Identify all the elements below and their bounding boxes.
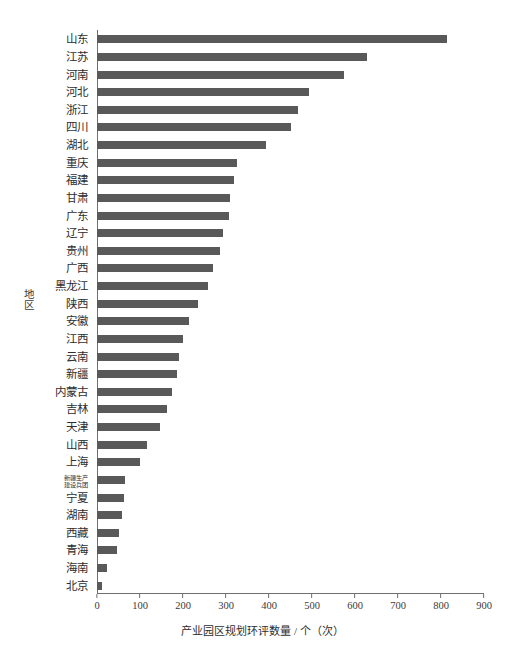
- bar-row: [97, 541, 484, 560]
- bar: [97, 388, 172, 396]
- bar-row: [97, 224, 484, 243]
- bar-row: [97, 259, 484, 278]
- bar: [97, 88, 309, 96]
- category-label: 河南: [66, 65, 88, 84]
- x-axis-tick: 0: [94, 594, 99, 611]
- category-label: 江苏: [66, 48, 88, 67]
- category-label: 吉林: [66, 400, 88, 419]
- bar: [97, 423, 160, 431]
- category-label: 甘肃: [66, 189, 88, 208]
- bar: [97, 511, 122, 519]
- x-axis-tick-mark: [398, 594, 399, 598]
- x-axis-tick-label: 700: [390, 600, 406, 611]
- category-label: 云南: [66, 347, 88, 366]
- bar: [97, 141, 266, 149]
- bar-row: [97, 277, 484, 296]
- x-axis-tick-label: 400: [261, 600, 277, 611]
- category-label: 湖北: [66, 136, 88, 155]
- category-label: 湖南: [66, 506, 88, 525]
- bar: [97, 353, 179, 361]
- x-axis-tick-mark: [484, 594, 485, 598]
- bar: [97, 441, 147, 449]
- bar-row: [97, 83, 484, 102]
- category-label: 西藏: [66, 524, 88, 543]
- bar-chart: 地区 山东江苏河南河北浙江四川湖北重庆福建甘肃广东辽宁贵州广西黑龙江陕西安徽江西…: [0, 0, 525, 654]
- bar: [97, 300, 198, 308]
- category-label: 广东: [66, 206, 88, 225]
- x-axis-tick-label: 500: [304, 600, 320, 611]
- bar-row: [97, 136, 484, 155]
- x-axis-tick-label: 300: [218, 600, 234, 611]
- category-label: 四川: [66, 118, 88, 137]
- x-axis-title: 产业园区规划环评数量 / 个（次）: [0, 622, 525, 638]
- x-axis-tick-mark: [226, 594, 227, 598]
- category-label: 内蒙古: [55, 383, 88, 402]
- bar-rows: [97, 30, 484, 594]
- bar: [97, 546, 117, 554]
- bar: [97, 264, 213, 272]
- category-label: 天津: [66, 418, 88, 437]
- bar: [97, 123, 291, 131]
- bar-row: [97, 171, 484, 190]
- x-axis-tick-label: 900: [476, 600, 492, 611]
- category-label: 海南: [66, 559, 88, 578]
- category-label: 江西: [66, 330, 88, 349]
- x-axis-tick: 900: [476, 594, 492, 611]
- bar: [97, 458, 140, 466]
- bar: [97, 529, 119, 537]
- bar: [97, 282, 208, 290]
- bar: [97, 582, 102, 590]
- x-axis-tick-mark: [269, 594, 270, 598]
- x-axis-tick-mark: [140, 594, 141, 598]
- bar: [97, 106, 298, 114]
- x-axis-tick-mark: [97, 594, 98, 598]
- x-axis-tick: 100: [132, 594, 148, 611]
- bar-row: [97, 242, 484, 261]
- bar-row: [97, 576, 484, 595]
- bar: [97, 405, 167, 413]
- bar: [97, 317, 189, 325]
- bar: [97, 247, 220, 255]
- bar: [97, 494, 124, 502]
- x-axis-ticks: 0100200300400500600700800900: [97, 594, 484, 620]
- x-axis-tick: 400: [261, 594, 277, 611]
- bar-row: [97, 312, 484, 331]
- bar: [97, 229, 223, 237]
- x-axis-tick-label: 600: [347, 600, 363, 611]
- x-axis-tick: 300: [218, 594, 234, 611]
- bar-row: [97, 365, 484, 384]
- bar: [97, 53, 367, 61]
- category-label: 浙江: [66, 101, 88, 120]
- category-label: 重庆: [66, 153, 88, 172]
- category-label: 山西: [66, 435, 88, 454]
- category-label: 北京: [66, 576, 88, 595]
- bar: [97, 370, 177, 378]
- category-label: 宁夏: [66, 488, 88, 507]
- category-label: 山东: [66, 30, 88, 49]
- x-axis-tick-label: 200: [175, 600, 191, 611]
- x-axis-tick-mark: [312, 594, 313, 598]
- x-axis-tick-mark: [441, 594, 442, 598]
- category-label: 陕西: [66, 294, 88, 313]
- bar-row: [97, 206, 484, 225]
- bar-row: [97, 347, 484, 366]
- bar-row: [97, 118, 484, 137]
- category-label: 河北: [66, 83, 88, 102]
- x-axis-tick: 200: [175, 594, 191, 611]
- category-label: 辽宁: [66, 224, 88, 243]
- bar-row: [97, 383, 484, 402]
- x-axis-tick: 700: [390, 594, 406, 611]
- bar-row: [97, 153, 484, 172]
- bar-row: [97, 418, 484, 437]
- x-axis-tick-label: 100: [132, 600, 148, 611]
- x-axis-tick-mark: [355, 594, 356, 598]
- bar-row: [97, 524, 484, 543]
- x-axis-tick: 600: [347, 594, 363, 611]
- category-label-line: 建设兵团: [64, 481, 88, 488]
- bar-row: [97, 48, 484, 67]
- category-label: 福建: [66, 171, 88, 190]
- bar: [97, 564, 107, 572]
- bar-row: [97, 471, 484, 490]
- category-label: 上海: [66, 453, 88, 472]
- x-axis-tick-label: 800: [433, 600, 449, 611]
